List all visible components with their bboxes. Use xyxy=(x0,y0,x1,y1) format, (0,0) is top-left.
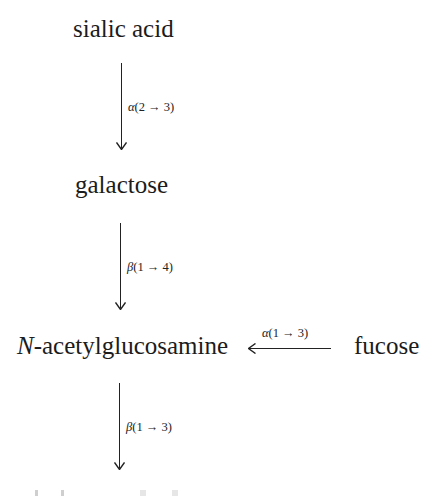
arrow-shaft xyxy=(249,348,331,349)
node-n-acetylglucosamine: N-acetylglucosamine xyxy=(17,333,228,358)
ascender-fragment xyxy=(140,490,146,496)
linkage-label: α(2 → 3) xyxy=(128,101,174,114)
linkage-position: (1 → 4) xyxy=(133,260,173,274)
arrow-down-icon xyxy=(114,462,125,470)
arrow-left-icon xyxy=(248,343,256,354)
node-sialic-acid: sialic acid xyxy=(73,16,174,41)
node-label-rest: -acetylglucosamine xyxy=(34,332,228,359)
node-galactose: galactose xyxy=(75,172,168,197)
arrow-shaft xyxy=(121,63,122,148)
linkage-position: (2 → 3) xyxy=(135,100,175,114)
arrow-shaft xyxy=(119,383,120,468)
arrow-down-icon xyxy=(116,142,127,150)
ascender-fragment xyxy=(35,490,38,496)
linkage-label: β(1 → 3) xyxy=(126,421,172,434)
node-prefix: N xyxy=(17,332,34,359)
linkage-position: (1 → 3) xyxy=(269,326,309,340)
ascender-fragment xyxy=(61,490,64,496)
node-fucose: fucose xyxy=(354,333,419,358)
arrow-down-icon xyxy=(115,302,126,310)
linkage-label: α(1 → 3) xyxy=(262,327,308,340)
ascender-fragment xyxy=(172,490,178,496)
linkage-label: β(1 → 4) xyxy=(127,261,173,274)
linkage-position: (1 → 3) xyxy=(132,420,172,434)
arrow-shaft xyxy=(120,223,121,308)
